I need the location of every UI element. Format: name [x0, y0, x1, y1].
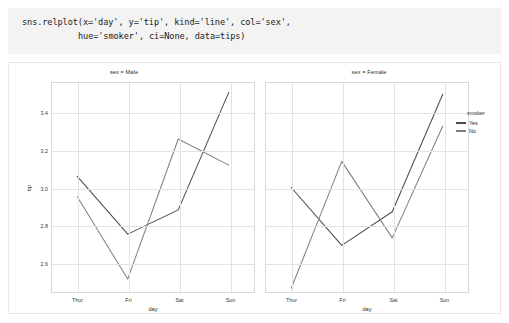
code-line-1: sns.relplot(x='day', y='tip', kind='line…	[22, 15, 501, 29]
legend-item-yes[interactable]: Yes	[456, 119, 496, 127]
gridline-vertical	[129, 83, 130, 292]
x-axis-label-male: day	[148, 306, 157, 312]
y-tick-label: 3.2	[41, 148, 49, 154]
gridline-horizontal	[266, 226, 468, 227]
facet-title-male: sex = Male	[9, 69, 239, 75]
x-tick-label: Sat	[175, 297, 183, 303]
code-cell[interactable]: sns.relplot(x='day', y='tip', kind='line…	[8, 8, 501, 54]
legend-items: YesNo	[456, 119, 496, 135]
y-axis-label: tip	[26, 185, 32, 191]
gridline-horizontal	[266, 264, 468, 265]
legend-item-label: Yes	[469, 120, 478, 126]
legend-swatch-icon	[456, 122, 466, 123]
x-axis-label-female: day	[362, 306, 371, 312]
y-tick-label: 3.0	[41, 186, 49, 192]
x-tick-label: Thur	[286, 297, 297, 303]
gridline-horizontal	[52, 113, 254, 114]
figure-card: sex = Male tip day 3.43.23.02.82.6ThurFr…	[8, 62, 501, 314]
gridline-vertical	[394, 83, 395, 292]
legend-swatch-icon	[456, 130, 466, 131]
gridline-horizontal	[52, 264, 254, 265]
plot-area-male: tip day 3.43.23.02.82.6ThurFriSatSun	[51, 82, 255, 293]
legend-title: smoker	[456, 110, 496, 116]
y-tick-label: 2.6	[41, 261, 49, 267]
y-tick-label: 2.8	[41, 223, 49, 229]
facet-panel-male: sex = Male tip day 3.43.23.02.82.6ThurFr…	[9, 63, 259, 315]
gridline-horizontal	[52, 226, 254, 227]
gridline-vertical	[292, 83, 293, 292]
x-tick-label: Fri	[125, 297, 131, 303]
x-tick-label: Sun	[226, 297, 236, 303]
legend: smoker YesNo	[456, 110, 496, 135]
series-line-yes	[291, 94, 443, 245]
facet-panel-female: sex = Female day ThurFriSatSun	[259, 63, 502, 315]
gridline-horizontal	[266, 189, 468, 190]
gridline-horizontal	[52, 189, 254, 190]
x-tick-label: Thur	[72, 297, 83, 303]
gridline-vertical	[231, 83, 232, 292]
legend-item-no[interactable]: No	[456, 127, 496, 135]
gridline-horizontal	[266, 151, 468, 152]
series-line-no	[77, 139, 229, 279]
series-lines-male	[52, 83, 254, 292]
code-line-2: hue='smoker', ci=None, data=tips)	[22, 29, 501, 43]
gridline-vertical	[180, 83, 181, 292]
plot-area-female: day ThurFriSatSun	[265, 82, 469, 293]
x-tick-label: Sat	[389, 297, 397, 303]
gridline-horizontal	[266, 113, 468, 114]
gridline-vertical	[78, 83, 79, 292]
gridline-vertical	[445, 83, 446, 292]
gridline-horizontal	[52, 151, 254, 152]
legend-item-label: No	[469, 128, 476, 134]
series-lines-female	[266, 83, 468, 292]
x-tick-label: Sun	[440, 297, 450, 303]
x-tick-label: Fri	[339, 297, 345, 303]
facet-title-female: sex = Female	[259, 69, 479, 75]
y-tick-label: 3.4	[41, 110, 49, 116]
gridline-vertical	[343, 83, 344, 292]
notebook-output-root: sns.relplot(x='day', y='tip', kind='line…	[0, 0, 509, 323]
